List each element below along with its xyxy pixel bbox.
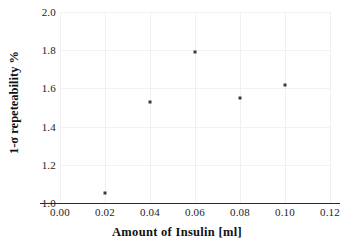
x-tick-label: 0.04 <box>128 206 172 218</box>
gridline-vertical <box>150 12 151 203</box>
gridline-horizontal <box>60 127 330 128</box>
y-tick-label: 1.2 <box>30 159 56 171</box>
gridline-vertical <box>330 12 331 203</box>
x-axis-title: Amount of Insulin [ml] <box>0 225 354 240</box>
y-axis-title: 1-σ repeteability % <box>7 13 22 193</box>
gridline-vertical <box>195 12 196 203</box>
x-tick-label: 0.10 <box>263 206 307 218</box>
plot-area <box>60 12 330 203</box>
gridline-horizontal <box>60 12 330 13</box>
x-tick-label: 0.00 <box>38 206 82 218</box>
gridline-vertical <box>240 12 241 203</box>
gridline-vertical <box>285 12 286 203</box>
x-tick-label: 0.02 <box>83 206 127 218</box>
data-point <box>104 192 107 195</box>
gridline-horizontal <box>60 88 330 89</box>
y-tick-label: 1.4 <box>30 121 56 133</box>
data-point <box>194 51 197 54</box>
y-tick-label: 2.0 <box>30 6 56 18</box>
data-point <box>239 96 242 99</box>
y-tick-label: 1.8 <box>30 44 56 56</box>
gridline-horizontal <box>60 165 330 166</box>
x-axis-line <box>40 203 340 204</box>
x-tick-label: 0.08 <box>218 206 262 218</box>
y-tick-label: 1.6 <box>30 82 56 94</box>
x-tick-label: 0.12 <box>308 206 352 218</box>
data-point <box>149 100 152 103</box>
gridline-vertical <box>105 12 106 203</box>
x-tick-label: 0.06 <box>173 206 217 218</box>
data-point <box>284 83 287 86</box>
x-axis-tick-labels: 0.000.020.040.060.080.100.12 <box>0 206 354 222</box>
gridline-vertical <box>60 12 61 203</box>
scatter-chart-figure: 2.01.81.61.41.21.0 0.000.020.040.060.080… <box>0 0 354 251</box>
